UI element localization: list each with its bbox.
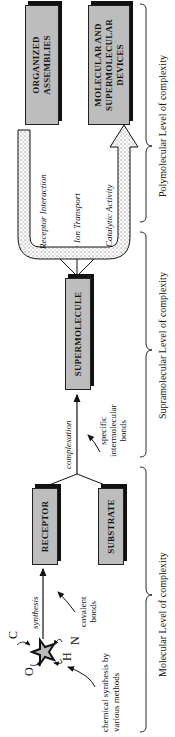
- brace-polymolecular: [140, 4, 152, 222]
- devices-box: MOLECULAR ANDSUPERMOLECULARDEVICES: [88, 5, 130, 125]
- level-polymolecular: Polymolecular Level of complexity: [158, 55, 168, 197]
- complexation-label: complexation: [63, 421, 73, 470]
- level-supramolecular: Supramolecular Level of complexity: [158, 272, 168, 419]
- brace-supramolecular: [140, 232, 152, 457]
- function-ion-transport: Ion Transport: [72, 193, 82, 243]
- brace-molecular: [140, 467, 152, 732]
- intermolecular-bonds-note: specific intermolecular bonds: [98, 405, 128, 457]
- function-receptor-interaction: Receptor Interaction: [38, 174, 48, 249]
- supramolecular-chemistry-diagram: C O H N chemical synthesis by various me…: [0, 0, 175, 737]
- synthesis-label: synthesis: [30, 597, 40, 630]
- receptor-box: RECEPTOR: [32, 488, 58, 565]
- supermolecule-box: SUPERMOLECULE: [65, 278, 91, 390]
- organized-assemblies-box: ORGANIZEDASSEMBLIES: [25, 5, 59, 125]
- function-catalytic-activity: Catalytic Activity: [104, 184, 114, 247]
- atom-c: C: [8, 631, 18, 639]
- level-molecular: Molecular Level of complexity: [158, 552, 168, 677]
- atom-star-icon: [32, 640, 54, 664]
- covalent-bonds-note: covalent bonds: [78, 597, 98, 628]
- atom-n: N: [70, 636, 80, 645]
- atom-h: H: [62, 652, 72, 661]
- substrate-box: SUBSTRATE: [98, 488, 124, 565]
- atom-o: O: [24, 667, 34, 676]
- chemical-synthesis-note: chemical synthesis by various methods: [100, 653, 122, 732]
